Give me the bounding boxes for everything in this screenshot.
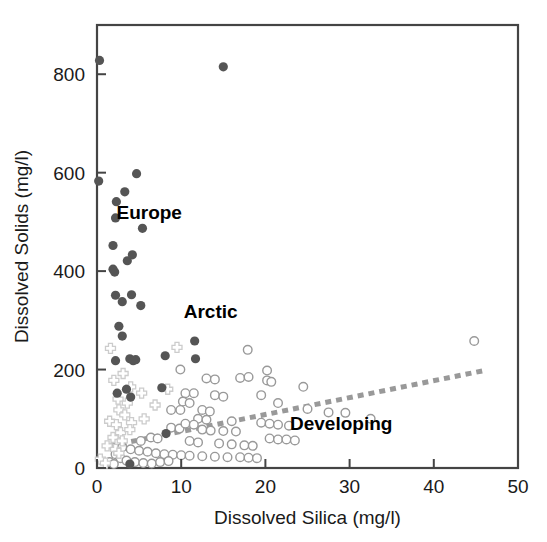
x-tick-label: 30: [339, 476, 360, 497]
data-point: [202, 374, 211, 383]
data-point: [136, 301, 145, 310]
x-tick-label: 50: [507, 476, 528, 497]
data-point: [139, 414, 149, 424]
data-point: [157, 383, 166, 392]
data-point: [248, 442, 257, 451]
data-point: [161, 429, 170, 438]
data-point: [129, 356, 138, 365]
data-point: [282, 435, 291, 444]
data-point: [263, 366, 272, 375]
data-point: [176, 406, 185, 415]
data-point: [128, 250, 137, 259]
data-point: [470, 337, 479, 346]
data-point: [227, 440, 236, 449]
chart-canvas: 01020304050 0200400600800 EuropeArcticDe…: [0, 0, 547, 542]
data-point: [118, 368, 128, 378]
data-point: [105, 343, 115, 353]
data-point: [223, 453, 232, 462]
data-point: [152, 449, 161, 458]
data-point: [181, 389, 190, 398]
data-point: [185, 437, 194, 446]
data-point: [257, 391, 266, 400]
plot-frame: [97, 25, 518, 468]
data-point: [150, 400, 160, 410]
y-axis-title: Dissolved Solids (mg/l): [11, 150, 32, 343]
data-point: [299, 382, 308, 391]
data-point: [143, 447, 152, 456]
data-point: [164, 457, 173, 466]
data-point: [206, 426, 215, 435]
data-point: [132, 169, 141, 178]
x-tick-label: 0: [92, 476, 103, 497]
data-point: [236, 453, 245, 462]
data-point: [111, 291, 120, 300]
data-point: [232, 427, 241, 436]
y-tick-label: 200: [53, 360, 85, 381]
data-point: [185, 451, 194, 460]
data-point: [108, 265, 117, 274]
data-point: [137, 388, 147, 398]
data-point: [138, 224, 147, 233]
data-point: [265, 419, 274, 428]
y-tick-label: 800: [53, 64, 85, 85]
data-point: [113, 389, 122, 398]
data-point: [274, 420, 283, 429]
data-point: [156, 458, 165, 467]
data-point: [198, 452, 207, 461]
data-point: [95, 56, 104, 65]
data-point: [291, 436, 300, 445]
data-point: [190, 420, 199, 429]
x-tick-label: 10: [171, 476, 192, 497]
data-point: [167, 406, 176, 415]
x-tick-label: 40: [423, 476, 444, 497]
data-point: [136, 437, 145, 446]
data-point: [126, 445, 135, 454]
data-point: [147, 459, 156, 468]
data-point: [206, 407, 215, 416]
data-point: [176, 365, 185, 374]
data-point: [253, 454, 262, 463]
data-point: [127, 290, 136, 299]
data-point: [219, 392, 228, 401]
data-point: [94, 176, 103, 185]
data-point: [135, 446, 144, 455]
data-point: [267, 378, 276, 387]
data-point: [244, 373, 253, 382]
data-point: [114, 322, 123, 331]
data-point: [274, 399, 283, 408]
data-point: [190, 389, 199, 398]
data-point: [274, 435, 283, 444]
data-point: [181, 419, 190, 428]
data-point: [190, 336, 199, 345]
data-point: [153, 434, 162, 443]
data-point: [109, 375, 119, 385]
data-point: [177, 451, 186, 460]
y-tick-label: 0: [74, 458, 85, 479]
data-point: [111, 356, 120, 365]
data-point: [211, 375, 220, 384]
series-europe-points: [94, 56, 228, 469]
y-tick-label: 600: [53, 163, 85, 184]
data-point: [120, 187, 129, 196]
data-point: [219, 62, 228, 71]
data-point: [194, 438, 203, 447]
data-point: [161, 351, 170, 360]
data-point: [215, 439, 224, 448]
x-tick-label: 20: [255, 476, 276, 497]
data-point: [240, 441, 249, 450]
x-axis-title: Dissolved Silica (mg/l): [214, 507, 401, 528]
data-point: [227, 417, 236, 426]
data-point: [211, 452, 220, 461]
data-point: [211, 391, 220, 400]
data-point: [198, 425, 207, 434]
scatter-plot-figure: 01020304050 0200400600800 EuropeArcticDe…: [0, 0, 547, 542]
data-point: [191, 354, 200, 363]
y-tick-label: 400: [53, 261, 85, 282]
series-label-developing: Developing: [290, 413, 392, 434]
data-point: [108, 241, 117, 250]
data-point: [236, 374, 245, 383]
data-point: [243, 346, 252, 355]
data-point: [244, 453, 253, 462]
data-point: [265, 434, 274, 443]
data-point: [172, 342, 182, 352]
